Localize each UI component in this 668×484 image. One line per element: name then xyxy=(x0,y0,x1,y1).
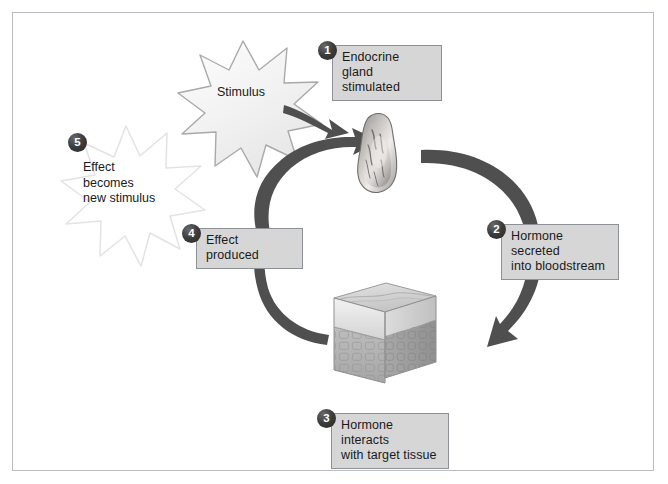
step-1-callout[interactable]: Endocrine gland stimulated xyxy=(332,45,442,101)
step-3-callout[interactable]: Hormone interacts with target tissue xyxy=(331,413,449,469)
stimulus-starburst-label: Stimulus xyxy=(217,85,265,101)
step-2-callout[interactable]: Hormone secreted into bloodstream xyxy=(501,224,619,280)
endocrine-gland-illustration xyxy=(358,114,397,193)
figure-root: 1 Endocrine gland stimulated 2 Hormone s… xyxy=(0,0,668,484)
step-5-badge: 5 xyxy=(68,133,87,152)
step-5-label: Effect becomes new stimulus xyxy=(83,160,188,207)
target-tissue-block-illustration xyxy=(334,283,436,383)
step-2-badge: 2 xyxy=(487,220,506,239)
step-1-badge: 1 xyxy=(318,41,337,60)
step-4-callout[interactable]: Effect produced xyxy=(196,228,303,269)
step-3-badge: 3 xyxy=(317,409,336,428)
step-4-badge: 4 xyxy=(182,224,201,243)
